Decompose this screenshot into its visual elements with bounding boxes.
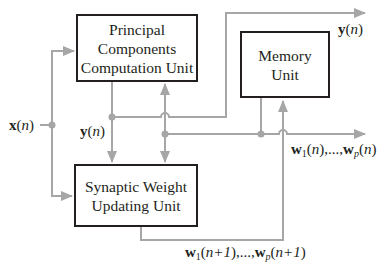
junction-memory [258, 131, 265, 138]
label-w-next: w1(n+1),...,wp(n+1) [185, 244, 306, 260]
pccu-label-line3: Computation Unit [81, 58, 193, 77]
memory-unit: Memory Unit [240, 31, 330, 98]
principal-components-computation-unit: Principal Components Computation Unit [76, 14, 198, 82]
memory-label-line1: Memory [258, 46, 311, 65]
wire-x-to-swuu [52, 125, 72, 196]
wire-x-to-pccu [52, 51, 74, 125]
memory-label-line2: Unit [258, 65, 311, 84]
pccu-label-line1: Principal [81, 20, 193, 39]
synaptic-weight-updating-unit: Synaptic Weight Updating Unit [74, 164, 198, 227]
junction-y [109, 114, 116, 121]
swuu-label-line1: Synaptic Weight [85, 177, 187, 196]
label-w-current: w1(n),...,wp(n) [291, 141, 376, 157]
junction-x [49, 122, 56, 129]
swuu-label-line2: Updating Unit [85, 196, 187, 215]
wire-w-bus [165, 130, 365, 134]
junction-w [162, 131, 169, 138]
label-y-internal: y(n) [80, 123, 105, 139]
label-y-output: y(n) [338, 21, 363, 37]
pccu-label-line2: Components [81, 39, 193, 58]
label-x-input: x(n) [9, 117, 34, 133]
